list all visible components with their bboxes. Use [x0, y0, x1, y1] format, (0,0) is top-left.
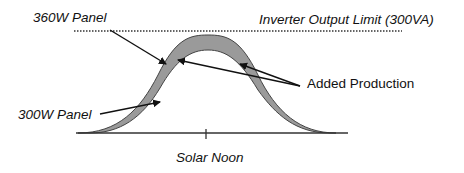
label-solar-noon: Solar Noon: [176, 150, 244, 165]
label-added-production: Added Production: [307, 76, 414, 91]
added-production-band: [78, 35, 336, 133]
label-300w-panel: 300W Panel: [18, 107, 92, 122]
arrow-300w: [100, 102, 160, 114]
arrow-360w: [110, 30, 166, 64]
label-360w-panel: 360W Panel: [33, 10, 107, 25]
label-inverter-limit: Inverter Output Limit (300VA): [259, 12, 434, 27]
